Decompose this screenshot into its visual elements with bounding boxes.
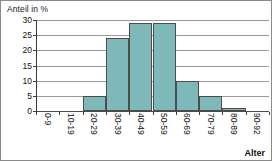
x-axis-tick-label: 40-49 bbox=[137, 113, 146, 135]
y-axis-tick-label: 25 bbox=[6, 31, 32, 40]
x-axis-tick-label: 70-79 bbox=[206, 113, 215, 135]
x-axis-tick: 60-69 bbox=[176, 112, 199, 148]
x-axis-tick-label: 60-69 bbox=[183, 113, 192, 135]
y-axis-tick-mark bbox=[33, 35, 37, 36]
y-axis-tick-labels: 051015202530 bbox=[1, 20, 32, 112]
x-axis-tick: 0-9 bbox=[36, 112, 59, 148]
x-axis-tick-mark bbox=[153, 112, 154, 115]
x-axis-tick-mark bbox=[176, 112, 177, 115]
x-axis-tick-mark bbox=[222, 112, 223, 115]
bar bbox=[199, 96, 222, 111]
x-axis-tick-mark bbox=[246, 112, 247, 115]
x-axis-tick: 20-29 bbox=[83, 112, 106, 148]
x-axis-tick-label: 20-29 bbox=[90, 113, 99, 135]
y-axis-tick-mark bbox=[33, 81, 37, 82]
x-axis-tick-mark bbox=[129, 112, 130, 115]
bar bbox=[83, 96, 106, 111]
y-axis-tick-label: 20 bbox=[6, 46, 32, 55]
x-axis-tick: 90-92 bbox=[246, 112, 269, 148]
bar bbox=[153, 23, 176, 111]
bar-chart-figure: Anteil in % 051015202530 0-910-1920-2930… bbox=[0, 0, 272, 161]
x-axis-tick-label: 50-59 bbox=[160, 113, 169, 135]
bar bbox=[106, 38, 129, 111]
x-axis-tick: 10-19 bbox=[59, 112, 82, 148]
x-axis-tick-label: 0-9 bbox=[43, 113, 52, 125]
y-axis-tick-label: 0 bbox=[6, 107, 32, 116]
x-axis-label: Alter bbox=[244, 148, 265, 158]
x-axis-tick-label: 30-39 bbox=[113, 113, 122, 135]
x-axis-tick: 70-79 bbox=[199, 112, 222, 148]
y-axis-tick-label: 30 bbox=[6, 16, 32, 25]
x-axis-tick-label: 80-89 bbox=[230, 113, 239, 135]
y-axis-tick-mark bbox=[33, 66, 37, 67]
bar bbox=[176, 81, 199, 111]
x-axis-tick-label: 90-92 bbox=[253, 113, 262, 135]
y-axis-tick-mark bbox=[33, 20, 37, 21]
plot-area bbox=[36, 20, 269, 111]
y-axis-tick-label: 15 bbox=[6, 62, 32, 71]
y-axis-label: Anteil in % bbox=[7, 4, 48, 14]
bar bbox=[129, 23, 152, 111]
x-axis-tick-labels: 0-910-1920-2930-3940-4950-5960-6970-7980… bbox=[36, 112, 269, 148]
x-axis-tick-mark bbox=[269, 112, 270, 115]
x-axis-tick: 50-59 bbox=[153, 112, 176, 148]
bar bbox=[222, 108, 245, 111]
x-axis-tick-mark bbox=[106, 112, 107, 115]
x-axis-tick-mark bbox=[59, 112, 60, 115]
x-axis-tick-mark bbox=[36, 112, 37, 115]
x-axis-tick: 80-89 bbox=[222, 112, 245, 148]
gridline bbox=[36, 20, 269, 21]
x-axis-tick: 30-39 bbox=[106, 112, 129, 148]
x-axis-tick: 40-49 bbox=[129, 112, 152, 148]
x-axis-tick-mark bbox=[199, 112, 200, 115]
y-axis-tick-label: 5 bbox=[6, 92, 32, 101]
y-axis-tick-label: 10 bbox=[6, 77, 32, 86]
x-axis-tick-label: 10-19 bbox=[67, 113, 76, 135]
x-axis-tick-mark bbox=[83, 112, 84, 115]
y-axis-tick-mark bbox=[33, 50, 37, 51]
y-axis-tick-mark bbox=[33, 96, 37, 97]
